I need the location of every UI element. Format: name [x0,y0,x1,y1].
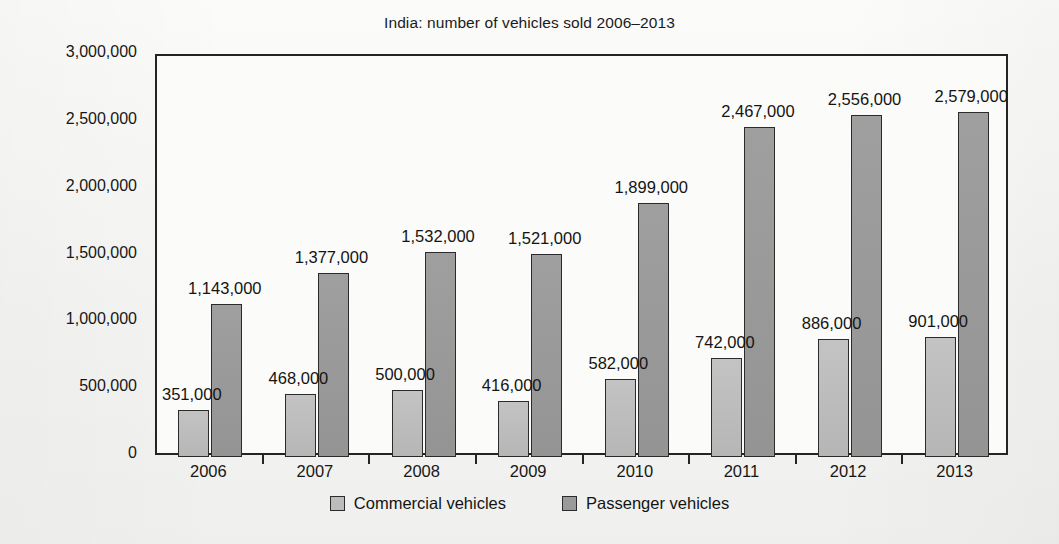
bar-commercial-2006 [178,410,209,457]
legend-swatch-icon [562,496,577,511]
bar-passenger-2008 [425,252,456,457]
value-label-commercial-2008: 500,000 [350,365,460,384]
legend-item-commercial[interactable]: Commercial vehicles [330,494,506,513]
bar-commercial-2009 [498,401,529,457]
bar-passenger-2009 [531,254,562,457]
x-tick-mark [901,455,903,464]
x-tick-label-2011: 2011 [691,462,791,481]
bar-passenger-2007 [318,273,349,457]
y-axis-tick-labels: 0500,0001,000,0001,500,0002,000,0002,500… [0,0,149,544]
legend-label: Passenger vehicles [586,494,729,513]
y-tick-label: 500,000 [0,377,146,395]
value-label-commercial-2012: 886,000 [777,314,887,333]
y-tick-label: 3,000,000 [0,43,146,61]
x-tick-label-2009: 2009 [478,462,578,481]
x-tick-label-2008: 2008 [372,462,472,481]
x-tick-label-2006: 2006 [158,462,258,481]
x-tick-label-2013: 2013 [905,462,1005,481]
x-tick-label-2007: 2007 [265,462,365,481]
y-tick-label: 2,500,000 [0,110,146,128]
legend-swatch-icon [330,496,345,511]
x-tick-mark [368,455,370,464]
bar-commercial-2007 [285,394,316,457]
chart-legend: Commercial vehiclesPassenger vehicles [0,494,1059,513]
scanned-page: India: number of vehicles sold 2006–2013… [0,0,1059,544]
value-label-passenger-2010: 1,899,000 [591,178,711,197]
value-label-passenger-2011: 2,467,000 [698,102,818,121]
x-tick-mark [475,455,477,464]
y-tick-label: 0 [0,444,146,462]
bar-passenger-2010 [638,203,669,457]
x-tick-label-2012: 2012 [798,462,898,481]
value-label-passenger-2007: 1,377,000 [271,248,391,267]
bar-commercial-2010 [605,379,636,457]
bar-passenger-2013 [958,112,989,457]
bar-commercial-2012 [818,339,849,457]
bar-commercial-2008 [392,390,423,457]
value-label-passenger-2009: 1,521,000 [485,229,605,248]
bar-commercial-2011 [711,358,742,457]
x-tick-mark [795,455,797,464]
value-label-commercial-2007: 468,000 [243,369,353,388]
value-label-commercial-2010: 582,000 [563,354,673,373]
bar-passenger-2006 [211,304,242,457]
x-tick-label-2010: 2010 [585,462,685,481]
x-tick-mark [262,455,264,464]
legend-item-passenger[interactable]: Passenger vehicles [562,494,729,513]
bar-passenger-2012 [851,115,882,457]
x-tick-mark [582,455,584,464]
value-label-passenger-2013: 2,579,000 [911,87,1031,106]
value-label-passenger-2012: 2,556,000 [805,90,925,109]
value-label-commercial-2011: 742,000 [670,333,780,352]
value-label-passenger-2008: 1,532,000 [378,227,498,246]
bar-passenger-2011 [744,127,775,457]
value-label-commercial-2009: 416,000 [457,376,567,395]
y-tick-label: 1,500,000 [0,244,146,262]
y-tick-label: 2,000,000 [0,177,146,195]
y-tick-label: 1,000,000 [0,310,146,328]
value-label-commercial-2013: 901,000 [883,312,993,331]
legend-label: Commercial vehicles [354,494,506,513]
x-tick-mark [688,455,690,464]
bar-commercial-2013 [925,337,956,457]
chart-title: India: number of vehicles sold 2006–2013 [0,14,1059,32]
value-label-commercial-2006: 351,000 [137,385,247,404]
value-label-passenger-2006: 1,143,000 [165,279,285,298]
